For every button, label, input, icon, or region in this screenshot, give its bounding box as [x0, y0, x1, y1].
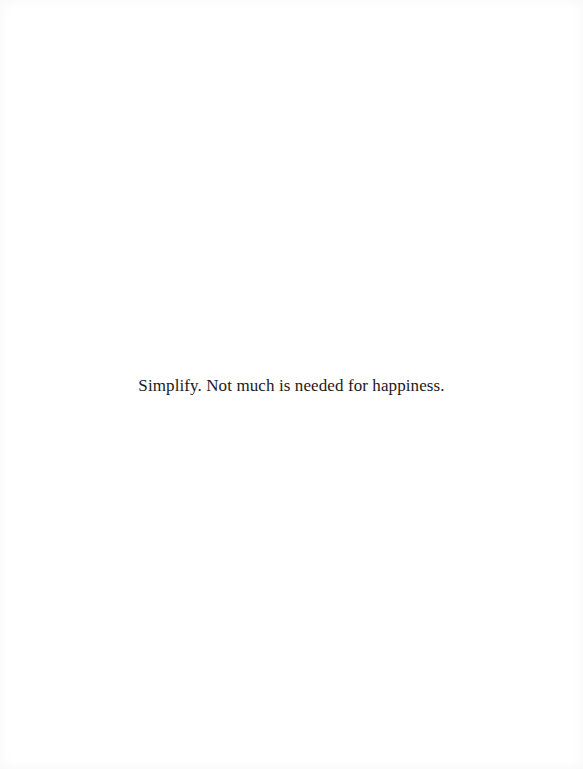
quote-text: Simplify. Not much is needed for happine… — [0, 375, 583, 397]
document-page: Simplify. Not much is needed for happine… — [0, 0, 583, 769]
